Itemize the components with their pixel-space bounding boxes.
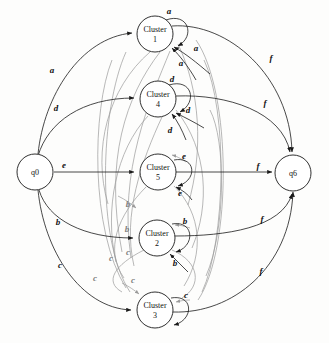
return-arc-d2 <box>172 114 186 140</box>
selfloop-c5-e <box>174 160 192 186</box>
edge-label-a-selfloop: a <box>167 6 172 16</box>
edge-label-e-from-q0: e <box>62 160 66 170</box>
edge-q0-c3-c <box>38 190 131 310</box>
state-diagram-svg: q0 Cluster 1 Cluster 4 Cluster 5 Cluster <box>0 0 329 343</box>
gray-edge-right-long1 <box>196 40 223 300</box>
node-q0[interactable]: q0 <box>17 154 53 190</box>
edge-label-a-from-q0: a <box>50 65 55 75</box>
node-cluster-4-number: 4 <box>156 100 160 109</box>
edge-label-d-return-2: d <box>168 125 173 135</box>
edge-label-c-gray-1: c <box>109 253 113 263</box>
node-cluster-5-number: 5 <box>156 173 160 182</box>
node-cluster-3-number: 3 <box>153 311 157 320</box>
edge-label-b-selfloop: b <box>183 216 188 226</box>
node-q6-label: q6 <box>289 169 297 178</box>
edge-label-c-gray-4: c <box>131 275 135 285</box>
edge-q0-c2-b <box>39 190 133 238</box>
gray-edge-c4-down <box>176 110 203 248</box>
return-arc-d1 <box>176 113 204 128</box>
edge-c1-q6-f <box>172 26 292 152</box>
node-cluster-3[interactable]: Cluster 3 <box>137 292 173 328</box>
edge-label-f-bottom: f <box>260 266 264 276</box>
edge-label-b-gray-in: b <box>126 199 131 209</box>
edge-label-f-mid: f <box>257 161 261 171</box>
edge-label-c-from-q0: c <box>58 260 62 270</box>
node-cluster-4[interactable]: Cluster 4 <box>140 81 176 117</box>
node-q6[interactable]: q6 <box>275 155 311 191</box>
q6-incoming-edges <box>172 26 293 312</box>
gray-arrow-into-c3b <box>176 300 190 302</box>
gray-edge-c1-down <box>178 44 198 205</box>
edge-label-c-gray-3: c <box>93 273 97 283</box>
node-cluster-5[interactable]: Cluster 5 <box>140 154 176 190</box>
edge-label-a-return-1: a <box>194 43 199 53</box>
edge-label-b-black-in: b <box>125 224 130 234</box>
edge-q0-c4-d <box>38 98 134 156</box>
node-q0-label: q0 <box>31 168 39 177</box>
node-cluster-4-label: Cluster <box>146 90 169 99</box>
edge-label-d-selfloop: d <box>170 74 175 84</box>
node-cluster-3-label: Cluster <box>143 301 166 310</box>
edge-label-d-return-1: d <box>186 105 191 115</box>
edge-label-c-gray-2: c <box>126 247 130 257</box>
node-cluster-2[interactable]: Cluster 2 <box>139 220 175 256</box>
edge-label-a-return-2: a <box>179 58 184 68</box>
edge-label-e-return-1: e <box>178 188 182 198</box>
edge-label-f-top: f <box>270 53 274 63</box>
node-cluster-2-number: 2 <box>155 239 159 248</box>
node-cluster-1-number: 1 <box>153 35 157 44</box>
edge-label-b-return-1: b <box>173 258 178 268</box>
return-arc-a2 <box>172 48 196 80</box>
edge-label-d-from-q0: d <box>54 103 59 113</box>
edge-c4-q6-f <box>176 96 290 152</box>
edge-label-b-from-q0: b <box>56 217 61 227</box>
node-cluster-1[interactable]: Cluster 1 <box>137 16 173 52</box>
edge-label-f-upper: f <box>264 98 268 108</box>
edge-label-e-selfloop: e <box>182 151 186 161</box>
diagram-canvas: q0 Cluster 1 Cluster 4 Cluster 5 Cluster <box>0 0 329 343</box>
gray-edge-right-long2 <box>202 60 221 292</box>
node-cluster-2-label: Cluster <box>145 229 168 238</box>
edge-label-c-selfloop: c <box>184 290 188 300</box>
node-cluster-5-label: Cluster <box>146 163 169 172</box>
node-cluster-1-label: Cluster <box>143 25 166 34</box>
